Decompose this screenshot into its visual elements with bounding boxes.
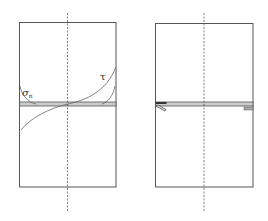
right-edge-block: [244, 107, 253, 110]
right-panel: [156, 13, 254, 211]
tau-symbol: τ: [100, 71, 106, 82]
left-panel: [20, 13, 117, 211]
left-edge-debond: [156, 102, 167, 104]
tau-label: τ: [100, 72, 106, 82]
sigma-subscript: n: [29, 92, 33, 99]
sigma-n-label: σn: [22, 88, 33, 99]
sigma-symbol: σ: [22, 87, 29, 98]
sigma-n-curve-right: [102, 86, 115, 104]
figure-canvas: [0, 0, 268, 221]
